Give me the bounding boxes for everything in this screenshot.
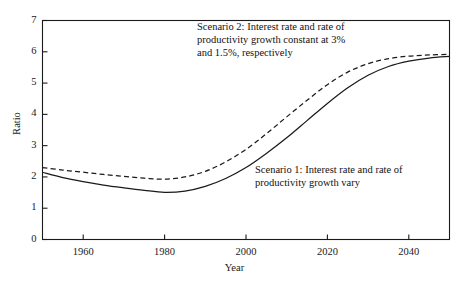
- chart-figure: Ratio Year 01234567 19601980200020202040…: [0, 0, 469, 285]
- y-tick-label: 6: [17, 45, 37, 56]
- series-line-scenario-2: [43, 54, 450, 179]
- scenario-1-annotation: Scenario 1: Interest rate and rate of pr…: [255, 163, 445, 189]
- y-tick-label: 7: [17, 14, 37, 25]
- y-tick-label: 4: [17, 107, 37, 118]
- scenario-2-annotation: Scenario 2: Interest rate and rate of pr…: [197, 20, 412, 60]
- x-tick-label: 2040: [386, 246, 432, 257]
- x-tick-label: 1980: [142, 246, 188, 257]
- y-tick-label: 3: [17, 139, 37, 150]
- x-tick-label: 2020: [304, 246, 350, 257]
- y-axis-ticks: [43, 21, 48, 240]
- x-axis-ticks: [83, 235, 409, 240]
- x-tick-label: 2000: [223, 246, 269, 257]
- y-tick-label: 5: [17, 76, 37, 87]
- y-tick-label: 2: [17, 170, 37, 181]
- y-tick-label: 1: [17, 201, 37, 212]
- x-tick-label: 1960: [60, 246, 106, 257]
- y-tick-label: 0: [17, 233, 37, 244]
- x-axis-label: Year: [0, 262, 469, 273]
